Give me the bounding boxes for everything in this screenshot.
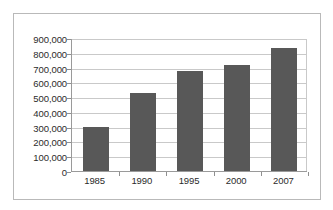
plot-wrapper: 900,000800,000700,000600,000500,000400,0… — [14, 14, 320, 199]
chart-figure: 900,000800,000700,000600,000500,000400,0… — [0, 0, 333, 210]
chart-border-frame: 900,000800,000700,000600,000500,000400,0… — [13, 13, 321, 200]
bar — [224, 65, 250, 171]
y-axis-tick-mark — [67, 69, 71, 70]
y-axis-tick-mark — [67, 54, 71, 55]
y-axis-tick-mark — [67, 142, 71, 143]
x-axis-tick-label: 1990 — [131, 175, 152, 186]
y-axis-tick-labels: 900,000800,000700,000600,000500,000400,0… — [14, 39, 67, 172]
y-axis-tick-mark — [67, 172, 71, 173]
y-axis-tick-mark — [67, 98, 71, 99]
y-axis-tick-label: 900,000 — [33, 34, 67, 45]
x-axis-tick-label: 1985 — [84, 175, 105, 186]
bar — [130, 93, 156, 171]
y-axis-tick-label: 200,000 — [33, 137, 67, 148]
y-axis-tick-label: 100,000 — [33, 152, 67, 163]
bar — [271, 48, 297, 171]
y-axis-tick-mark — [67, 113, 71, 114]
y-axis-tick-label: 800,000 — [33, 48, 67, 59]
y-axis-tick-mark — [67, 128, 71, 129]
x-axis-tick-labels: 19851990199520002007 — [71, 175, 307, 193]
y-axis-tick-mark — [67, 39, 71, 40]
y-axis-tick-label: 700,000 — [33, 63, 67, 74]
plot-right-edge — [306, 39, 307, 171]
y-axis-tick-mark — [67, 157, 71, 158]
plot-area — [71, 39, 307, 172]
x-axis-tick-mark — [308, 172, 309, 176]
bar — [83, 127, 109, 171]
bar — [177, 71, 203, 171]
y-axis-tick-label: 500,000 — [33, 93, 67, 104]
y-axis-tick-label: 400,000 — [33, 107, 67, 118]
x-axis-tick-label: 2007 — [273, 175, 294, 186]
x-axis-tick-label: 1995 — [179, 175, 200, 186]
y-axis-tick-label: 600,000 — [33, 78, 67, 89]
x-axis-tick-label: 2000 — [226, 175, 247, 186]
gridline — [72, 39, 307, 40]
y-axis-tick-mark — [67, 83, 71, 84]
y-axis-tick-label: 300,000 — [33, 122, 67, 133]
